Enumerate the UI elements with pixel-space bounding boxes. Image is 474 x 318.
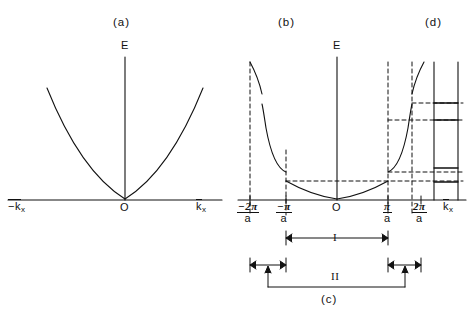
zone-2-label: II	[331, 270, 339, 282]
tick-2pi-a-den: a	[412, 212, 427, 224]
panel-a-energy-axis-label: E	[121, 39, 129, 51]
zone-1-label: I	[333, 231, 337, 243]
panel-c-tag: (c)	[321, 293, 337, 305]
tick-minus-pi-a-num: −π	[276, 201, 292, 212]
panel-b-band2-right	[388, 104, 412, 172]
figure-root: (a) E O −kx kx (b) E −2πa −πa O πa 2πa k…	[0, 0, 474, 318]
tick-minus-pi-a-den: a	[276, 212, 292, 224]
tick-minus-2pi-a-den: a	[237, 212, 259, 224]
panel-a-kx-right-sub: x	[202, 205, 207, 214]
panel-b-tag: (b)	[278, 16, 295, 28]
panel-b-band3-left	[250, 62, 262, 94]
tick-label-minus-2pi-a: −2πa	[237, 201, 259, 224]
panel-a-origin-label: O	[120, 201, 129, 213]
tick-label-minus-pi-a: −πa	[276, 201, 292, 224]
panel-b-kx-sub: x	[449, 205, 454, 214]
tick-label-pi-a: πa	[383, 201, 392, 224]
tick-label-2pi-a: 2πa	[412, 201, 427, 224]
tick-minus-2pi-a-num: −2π	[237, 201, 259, 212]
panel-a-kx-left-label: −kx	[8, 200, 25, 214]
panel-d-tag: (d)	[425, 16, 442, 28]
panel-b-kx-text: k	[443, 200, 449, 212]
tick-pi-a-num: π	[383, 201, 392, 212]
panel-a-kx-right-text: k	[196, 200, 202, 212]
tick-pi-a-den: a	[383, 212, 392, 224]
tick-2pi-a-num: 2π	[412, 201, 427, 212]
panel-b-band1-right	[337, 181, 388, 199]
panel-b-band1-left	[286, 181, 337, 199]
panel-b-energy-axis-label: E	[333, 39, 341, 51]
panel-b-band2-left	[262, 104, 286, 172]
panel-b-kx-label: kx	[443, 200, 454, 214]
panel-b-origin-label: O	[332, 201, 341, 213]
panel-a-kx-left-sub: x	[21, 205, 26, 214]
panel-a-tag: (a)	[113, 16, 130, 28]
figure-canvas	[0, 0, 474, 318]
panel-b-band3-right	[412, 62, 424, 94]
panel-a-kx-left-text: −k	[8, 200, 21, 212]
panel-a-kx-right-label: kx	[196, 200, 207, 214]
